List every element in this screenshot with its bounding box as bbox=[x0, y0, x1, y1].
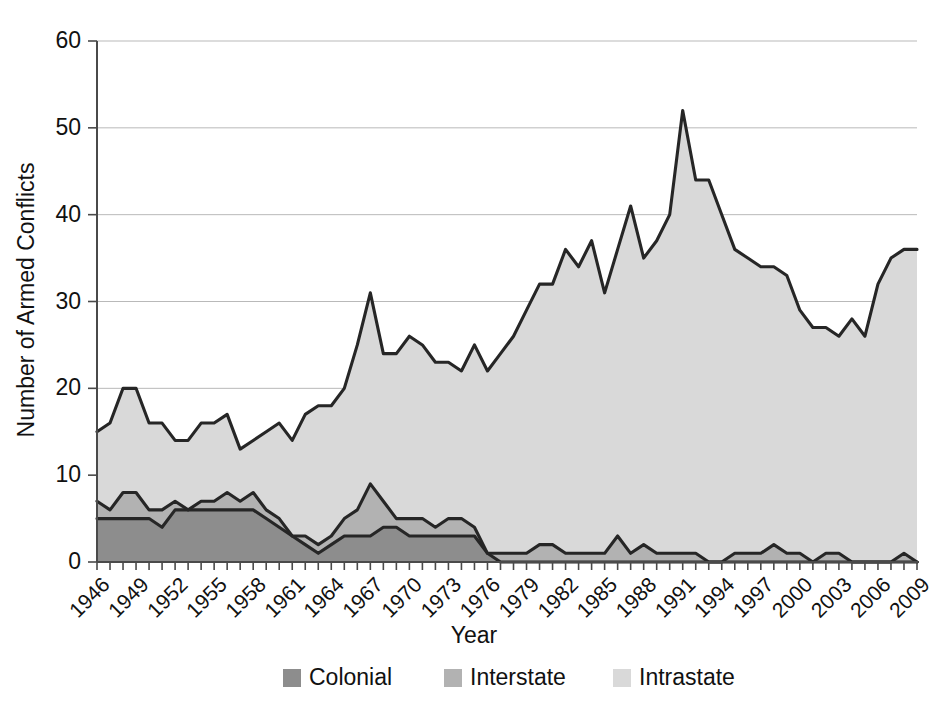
y-axis-title: Number of Armed Conflicts bbox=[13, 163, 39, 438]
legend-label-colonial: Colonial bbox=[309, 664, 392, 690]
x-tick-label-1976: 1976 bbox=[455, 573, 504, 622]
x-tick-label-1988: 1988 bbox=[611, 573, 660, 622]
x-tick-label-1982: 1982 bbox=[533, 573, 582, 622]
y-tick-label-60: 60 bbox=[55, 27, 81, 53]
x-tick-label-1979: 1979 bbox=[494, 573, 543, 622]
x-tick-label-1955: 1955 bbox=[182, 573, 231, 622]
x-axis-title: Year bbox=[451, 622, 498, 648]
y-tick-label-40: 40 bbox=[55, 201, 81, 227]
x-tick-label-1961: 1961 bbox=[260, 573, 309, 622]
legend-label-intrastate: Intrastate bbox=[639, 664, 735, 690]
x-tick-label-1970: 1970 bbox=[377, 573, 426, 622]
y-tick-label-20: 20 bbox=[55, 374, 81, 400]
y-axis-ticks: 0102030405060 bbox=[55, 27, 97, 574]
x-tick-label-1967: 1967 bbox=[338, 573, 387, 622]
armed-conflicts-stacked-area-chart: 0102030405060 19461949195219551958196119… bbox=[0, 0, 946, 713]
x-axis-ticks: 1946194919521955195819611964196719701973… bbox=[65, 562, 934, 622]
chart-legend: ColonialInterstateIntrastate bbox=[283, 664, 735, 690]
x-tick-label-2003: 2003 bbox=[806, 573, 855, 622]
x-tick-label-1991: 1991 bbox=[650, 573, 699, 622]
y-tick-label-10: 10 bbox=[55, 461, 81, 487]
x-tick-label-1997: 1997 bbox=[728, 573, 777, 622]
stacked-area-series bbox=[97, 110, 917, 562]
x-tick-label-1973: 1973 bbox=[416, 573, 465, 622]
x-tick-label-1985: 1985 bbox=[572, 573, 621, 622]
chart-container: 0102030405060 19461949195219551958196119… bbox=[0, 0, 946, 713]
x-tick-label-1994: 1994 bbox=[689, 572, 739, 622]
x-tick-label-1946: 1946 bbox=[65, 573, 114, 622]
area-intrastate bbox=[97, 110, 917, 562]
legend-label-interstate: Interstate bbox=[470, 664, 566, 690]
x-tick-label-1964: 1964 bbox=[299, 572, 349, 622]
x-tick-label-1949: 1949 bbox=[104, 573, 153, 622]
x-tick-label-2000: 2000 bbox=[767, 573, 816, 622]
x-tick-label-1958: 1958 bbox=[221, 573, 270, 622]
y-tick-label-0: 0 bbox=[68, 548, 81, 574]
x-tick-label-2006: 2006 bbox=[845, 573, 894, 622]
y-tick-label-30: 30 bbox=[55, 288, 81, 314]
legend-swatch-intrastate bbox=[613, 669, 631, 687]
legend-swatch-interstate bbox=[444, 669, 462, 687]
x-tick-label-2009: 2009 bbox=[885, 573, 934, 622]
y-tick-label-50: 50 bbox=[55, 114, 81, 140]
x-tick-label-1952: 1952 bbox=[143, 573, 192, 622]
legend-swatch-colonial bbox=[283, 669, 301, 687]
